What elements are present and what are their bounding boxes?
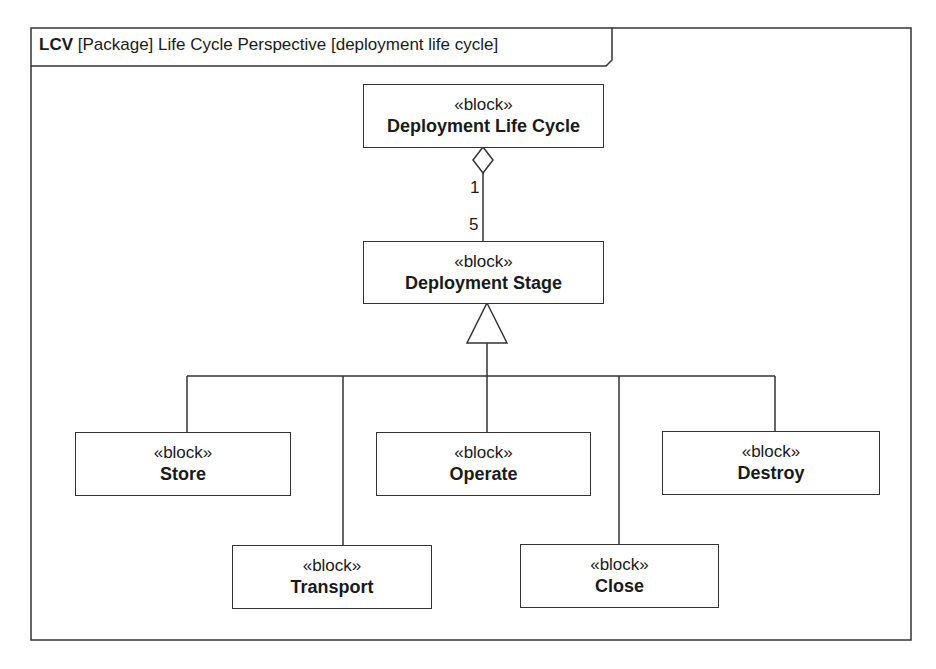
block-close[interactable]: «block» Close bbox=[520, 544, 719, 608]
block-name: Deployment Life Cycle bbox=[387, 115, 580, 138]
block-store[interactable]: «block» Store bbox=[75, 432, 291, 496]
block-deployment-stage[interactable]: «block» Deployment Stage bbox=[363, 241, 604, 304]
stereotype-label: «block» bbox=[742, 441, 801, 462]
block-name: Destroy bbox=[737, 462, 804, 485]
stereotype-label: «block» bbox=[303, 555, 362, 576]
generalization-triangle-icon bbox=[467, 303, 507, 343]
multiplicity-whole: 1 bbox=[470, 178, 479, 198]
multiplicity-part: 5 bbox=[469, 215, 478, 235]
frame-kind: LCV bbox=[39, 35, 73, 54]
block-name: Close bbox=[595, 575, 644, 598]
block-name: Deployment Stage bbox=[405, 272, 562, 295]
frame-title: LCV [Package] Life Cycle Perspective [de… bbox=[39, 34, 498, 56]
stereotype-label: «block» bbox=[454, 251, 513, 272]
aggregation-diamond-icon bbox=[473, 147, 493, 173]
block-operate[interactable]: «block» Operate bbox=[376, 432, 591, 496]
block-name: Operate bbox=[449, 463, 517, 486]
frame-title-text: [Package] Life Cycle Perspective [deploy… bbox=[78, 35, 498, 54]
block-name: Transport bbox=[290, 576, 373, 599]
stereotype-label: «block» bbox=[454, 94, 513, 115]
block-destroy[interactable]: «block» Destroy bbox=[662, 431, 880, 495]
stereotype-label: «block» bbox=[154, 442, 213, 463]
stereotype-label: «block» bbox=[590, 554, 649, 575]
block-deployment-life-cycle[interactable]: «block» Deployment Life Cycle bbox=[363, 84, 604, 148]
block-name: Store bbox=[160, 463, 206, 486]
stereotype-label: «block» bbox=[454, 442, 513, 463]
block-transport[interactable]: «block» Transport bbox=[232, 545, 432, 609]
